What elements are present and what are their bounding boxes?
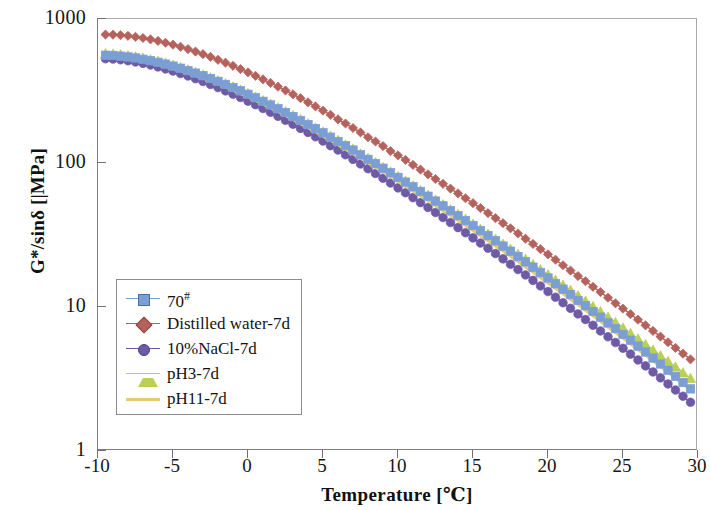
series-marker <box>461 216 469 224</box>
legend-marker-triangle-icon <box>126 365 160 383</box>
series-marker <box>169 62 177 70</box>
series-marker <box>394 173 402 181</box>
series-marker <box>543 250 552 259</box>
series-marker <box>101 51 109 59</box>
legend-item-5[interactable]: pH11-7d <box>117 386 301 411</box>
series-marker <box>589 307 597 315</box>
series-marker <box>326 133 334 141</box>
series-marker <box>529 263 537 271</box>
series-marker <box>664 380 673 389</box>
series-marker <box>446 207 454 215</box>
series-marker <box>649 354 657 362</box>
series-marker <box>424 192 432 200</box>
series-marker <box>423 170 432 179</box>
series-marker <box>206 74 214 82</box>
series-marker <box>499 242 507 250</box>
series-marker <box>341 141 349 149</box>
series-marker <box>303 98 312 107</box>
series-marker <box>229 83 237 91</box>
x-tick-label: 10 <box>367 455 427 477</box>
legend-marker-square-icon <box>126 290 160 308</box>
series-marker <box>251 94 259 102</box>
series-marker <box>604 332 613 341</box>
series-marker <box>304 120 312 128</box>
legend-label: Distilled water-7d <box>167 314 290 333</box>
series-marker <box>348 123 357 132</box>
series-marker <box>438 179 447 188</box>
series-marker <box>259 97 267 105</box>
series-marker <box>274 105 282 113</box>
series-marker <box>363 133 372 142</box>
series-marker <box>379 164 387 172</box>
series-marker <box>619 344 628 353</box>
series-marker <box>581 302 589 310</box>
series-marker <box>619 330 627 338</box>
series-marker <box>154 58 162 66</box>
series-marker <box>356 128 365 137</box>
series-marker <box>401 155 410 164</box>
series-marker <box>409 183 417 191</box>
x-tick-label: 15 <box>442 455 502 477</box>
legend-item-4[interactable]: pH3-7d <box>117 361 301 386</box>
series-marker <box>311 125 319 133</box>
series-marker <box>551 280 559 288</box>
series-marker <box>574 310 583 319</box>
series-marker <box>671 372 679 380</box>
series-marker <box>634 342 642 350</box>
series-marker <box>131 54 139 62</box>
series-marker <box>551 293 560 302</box>
x-tick-label: -5 <box>142 455 202 477</box>
x-tick-mark <box>97 450 98 458</box>
series-marker <box>506 224 515 233</box>
series-marker <box>468 199 477 208</box>
series-marker <box>191 69 199 77</box>
series-marker <box>244 90 252 98</box>
series-marker <box>168 40 177 49</box>
series-marker <box>656 360 664 368</box>
series-marker <box>184 66 192 74</box>
series-marker <box>521 234 530 243</box>
x-tick-mark <box>397 450 398 458</box>
series-marker <box>326 110 335 119</box>
series-marker <box>333 115 342 124</box>
series-marker <box>296 116 304 124</box>
series-marker <box>416 165 425 174</box>
legend-item-1[interactable]: 70# <box>117 286 301 311</box>
series-marker <box>536 245 545 254</box>
chart-legend: 70#Distilled water-7d10%NaCl-7dpH3-7dpH1… <box>116 279 302 415</box>
series-marker <box>199 71 207 79</box>
series-marker <box>679 378 687 386</box>
y-tick-mark <box>97 306 106 307</box>
series-marker <box>604 319 612 327</box>
series-marker <box>641 348 649 356</box>
x-tick-mark <box>622 450 623 458</box>
series-marker <box>484 231 492 239</box>
series-marker <box>371 159 379 167</box>
series-marker <box>138 33 147 42</box>
series-marker <box>454 211 462 219</box>
series-marker <box>281 108 289 116</box>
series-marker <box>266 101 274 109</box>
series-marker <box>559 285 567 293</box>
series-marker <box>146 57 154 65</box>
series-marker <box>514 252 522 260</box>
series-marker <box>491 214 500 223</box>
series-marker <box>589 321 598 330</box>
series-marker <box>401 178 409 186</box>
legend-item-3[interactable]: 10%NaCl-7d <box>117 336 301 361</box>
series-marker <box>656 374 665 383</box>
series-marker <box>176 42 185 51</box>
series-marker <box>109 51 117 59</box>
series-marker <box>544 274 552 282</box>
legend-item-2[interactable]: Distilled water-7d <box>117 311 301 336</box>
series-marker <box>476 226 484 234</box>
series-marker <box>146 35 155 44</box>
series-marker <box>514 265 523 274</box>
series-marker <box>596 327 605 336</box>
series-marker <box>131 32 140 41</box>
series-marker <box>311 102 320 111</box>
series-marker <box>371 137 380 146</box>
series-marker <box>611 324 619 332</box>
legend-label: pH3-7d <box>167 364 219 383</box>
series-marker <box>161 38 170 47</box>
